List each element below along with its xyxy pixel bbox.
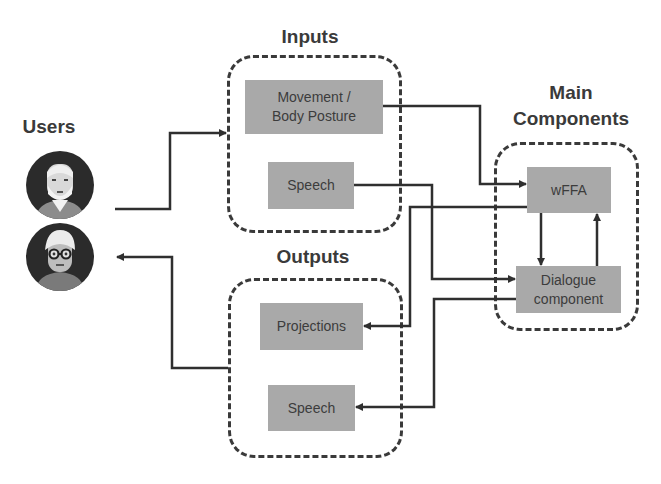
projections-output-node: Projections [260,303,363,350]
wffa-to-projections-arrow [364,207,527,326]
movement-label-line1: Movement / [272,88,356,107]
wffa-node: wFFA [527,167,611,213]
users-to-inputs-arrow [115,133,226,209]
movement-to-wffa-arrow [383,106,526,184]
elderly-woman-with-glasses-avatar-icon [25,222,95,292]
outputs-to-users-arrow [117,257,228,368]
speech-to-dialogue-arrow [354,185,515,279]
elderly-man-avatar-icon [25,150,95,220]
dialogue-to-speech-arrow [356,299,516,407]
movement-label-line2: Body Posture [272,107,356,126]
speech-input-node: Speech [268,162,354,209]
speech-output-node: Speech [268,385,355,431]
dialogue-label-line2: component [534,290,603,309]
dialogue-component-node: Dialogue component [516,266,621,313]
dialogue-label-line1: Dialogue [534,271,603,290]
movement-body-posture-node: Movement / Body Posture [245,80,383,134]
